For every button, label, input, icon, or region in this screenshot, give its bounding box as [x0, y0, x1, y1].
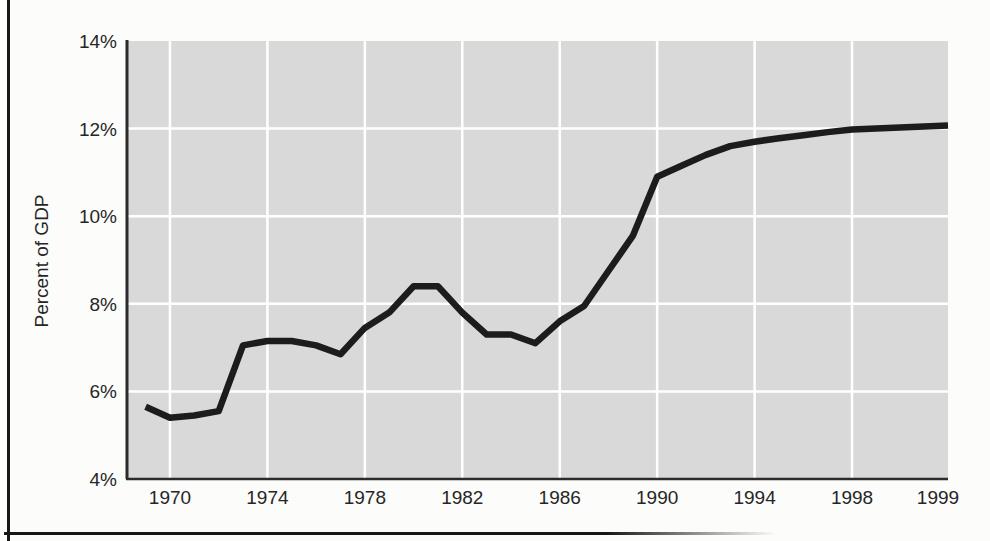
y-tick-label: 4%	[90, 469, 118, 490]
y-tick-label: 12%	[79, 119, 117, 140]
y-tick-label: 6%	[90, 381, 118, 402]
y-tick-label: 10%	[79, 206, 117, 227]
page-border-left	[7, 0, 10, 541]
y-axis-title: Percent of GDP	[31, 194, 52, 327]
y-tick-label: 8%	[90, 294, 118, 315]
x-axis-tick-labels: 197019741978198219861990199419981999	[149, 487, 959, 508]
figure: 14%12%10%8%6%4% 197019741978198219861990…	[0, 0, 990, 541]
x-tick-label: 1990	[636, 487, 678, 508]
y-tick-label: 14%	[79, 31, 117, 52]
x-tick-label: 1994	[733, 487, 776, 508]
line-chart: 14%12%10%8%6%4% 197019741978198219861990…	[0, 0, 990, 541]
x-tick-label: 1982	[441, 487, 483, 508]
plot-area	[127, 41, 948, 479]
x-tick-label: 1974	[246, 487, 289, 508]
x-tick-label: 1970	[149, 487, 191, 508]
page-rule-bottom	[4, 532, 776, 535]
x-tick-label: 1986	[539, 487, 581, 508]
y-axis-tick-labels: 14%12%10%8%6%4%	[79, 31, 117, 490]
x-tick-label: 1978	[344, 487, 386, 508]
x-tick-label: 1998	[831, 487, 873, 508]
x-tick-label: 1999	[917, 487, 959, 508]
